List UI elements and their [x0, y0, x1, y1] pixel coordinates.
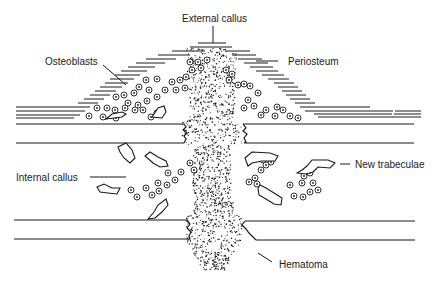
hematoma-stipple: [182, 48, 243, 271]
label-internal-callus: Internal callus: [16, 172, 78, 183]
periosteum-stripes: [16, 43, 421, 118]
osteoblast-cells: [86, 57, 321, 200]
label-hematoma: Hematoma: [279, 259, 328, 270]
label-external-callus: External callus: [182, 13, 247, 24]
label-osteoblasts: Osteoblasts: [45, 56, 98, 67]
new-trabeculae-shapes: [97, 106, 335, 219]
label-periosteum: Periosteum: [288, 56, 339, 67]
label-new-trabeculae: New trabeculae: [355, 159, 425, 170]
fracture-healing-diagram: External callus Periosteum Osteoblasts I…: [0, 0, 440, 281]
upper-cortex: [16, 124, 414, 143]
